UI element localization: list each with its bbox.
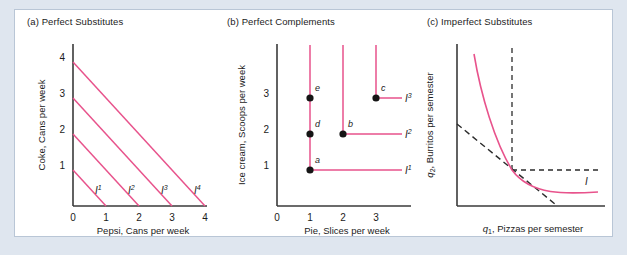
panel-perfect-complements: (b) Perfect Complements 3 2 1 0 1 2 3 xyxy=(215,10,415,238)
panel-b-xtick-3: 3 xyxy=(373,212,379,223)
panel-a-label-I4: I4 xyxy=(194,184,201,196)
panel-c-y-axis-title: q2, Burritos per semester xyxy=(424,72,436,177)
panel-b-ytick-1: 1 xyxy=(263,160,269,171)
panel-b-label-I3: I3 xyxy=(405,92,412,104)
panel-a-ytick-4: 4 xyxy=(59,52,65,63)
panel-b-point-b xyxy=(339,130,346,137)
panel-b-point-d xyxy=(306,130,313,137)
figure-plate: (a) Perfect Substitutes 4 3 2 1 0 1 2 3 … xyxy=(14,9,613,237)
panel-b-point-label-a: a xyxy=(315,155,320,165)
panel-a-xtick-4: 4 xyxy=(202,212,208,223)
panel-imperfect-substitutes: (c) Imperfect Substitutes I q1, Pizzas p… xyxy=(415,10,614,238)
panel-c-tangent-line xyxy=(457,124,555,204)
panel-c-curve-label: I xyxy=(585,176,588,187)
panel-b-ytick-2: 2 xyxy=(263,124,269,135)
panel-a-label-I2: I2 xyxy=(128,184,135,196)
panel-a-ytick-2: 2 xyxy=(59,124,65,135)
panel-c-indifference-curve xyxy=(474,54,598,193)
panel-b-plot: 3 2 1 0 1 2 3 I3 I2 I1 xyxy=(215,10,415,238)
figure-root: (a) Perfect Substitutes 4 3 2 1 0 1 2 3 … xyxy=(0,0,627,255)
panel-b-label-I1: I1 xyxy=(405,164,412,176)
panel-a-xtick-1: 1 xyxy=(103,212,109,223)
panel-c-plot: I q1, Pizzas per semester q2, Burritos p… xyxy=(415,10,614,238)
panel-b-point-e xyxy=(306,94,313,101)
panel-b-x-axis-title: Pie, Slices per week xyxy=(304,225,390,236)
panel-a-ytick-1: 1 xyxy=(59,160,65,171)
panel-a-xtick-3: 3 xyxy=(169,212,175,223)
panel-b-ytick-3: 3 xyxy=(263,88,269,99)
panel-a-ytick-3: 3 xyxy=(59,88,65,99)
panel-perfect-substitutes: (a) Perfect Substitutes 4 3 2 1 0 1 2 3 … xyxy=(15,10,215,238)
panel-a-label-I1: I1 xyxy=(95,184,102,196)
panel-b-curve-I1 xyxy=(310,45,402,170)
panel-a-x-axis-title: Pepsi, Cans per week xyxy=(97,225,190,236)
panel-b-point-label-b: b xyxy=(348,119,353,129)
panel-a-xtick-2: 2 xyxy=(136,212,142,223)
panel-b-label-I2: I2 xyxy=(405,128,412,140)
panel-b-xtick-1: 1 xyxy=(307,212,313,223)
panel-c-x-axis-title: q1, Pizzas per semester xyxy=(483,223,584,235)
panel-b-point-c xyxy=(372,94,379,101)
panel-b-curve-I3 xyxy=(376,45,402,98)
panel-a-label-I3: I3 xyxy=(161,184,168,196)
panel-b-point-label-e: e xyxy=(315,83,320,93)
panel-a-curve-I3 xyxy=(73,98,172,206)
panel-b-point-label-d: d xyxy=(315,119,321,129)
panel-b-y-axis-title: Ice cream, Scoops per week xyxy=(236,65,247,185)
panel-a-xtick-0: 0 xyxy=(70,212,76,223)
panel-a-curve-I4 xyxy=(73,62,205,206)
panel-a-plot: 4 3 2 1 0 1 2 3 4 I1 I2 I3 I4 xyxy=(15,10,215,238)
panel-a-y-axis-title: Coke, Cans per week xyxy=(36,79,47,170)
panel-b-xtick-2: 2 xyxy=(340,212,346,223)
panel-b-point-a xyxy=(306,166,313,173)
panel-b-point-label-c: c xyxy=(381,83,386,93)
panel-b-xtick-0: 0 xyxy=(274,212,280,223)
